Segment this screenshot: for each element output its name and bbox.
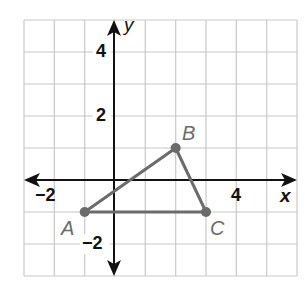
vertex-a — [80, 207, 90, 217]
coordinate-plane — [0, 0, 305, 288]
y-tick-label-2: 2 — [96, 105, 106, 126]
vertex-label-a: A — [61, 217, 74, 240]
x-tick-label-neg2: −2 — [35, 185, 56, 206]
vertex-label-b: B — [182, 122, 195, 145]
vertex-c — [201, 207, 211, 217]
vertex-label-c: C — [210, 217, 224, 240]
vertex-b — [171, 143, 181, 153]
x-tick-label-4: 4 — [231, 185, 241, 206]
y-tick-label-4: 4 — [96, 41, 106, 62]
x-axis — [24, 173, 297, 187]
y-axis-label: y — [124, 14, 134, 36]
x-axis-label: x — [280, 185, 291, 207]
y-tick-label-neg2: −2 — [82, 233, 103, 254]
